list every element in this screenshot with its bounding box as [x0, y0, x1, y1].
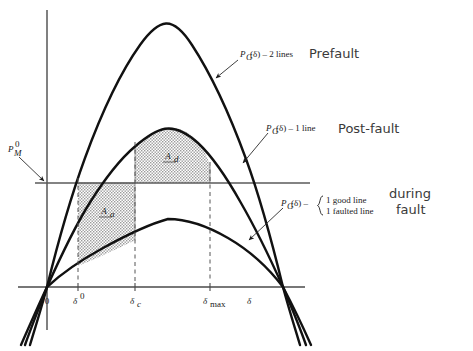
axis-label-delta0: δ 0	[73, 291, 85, 306]
delta-max-glyph: δ	[203, 296, 208, 306]
duringfault-arrow	[249, 208, 283, 240]
pm0-label-sup-0: 0	[15, 139, 20, 149]
duringfault-handwritten-line2: fault	[396, 202, 426, 217]
axis-label-delta-c: δ c	[130, 296, 141, 309]
duringfault-brace-icon	[318, 196, 324, 215]
prefault-handwritten: Prefault	[309, 46, 359, 61]
curve-duringfault-good-and-faulted	[21, 219, 311, 345]
duringfault-brace-line1: 1 good line	[326, 195, 367, 205]
prefault-label-p: P	[239, 49, 246, 59]
annotation-duringfault: P G (δ) – 1 good line 1 faulted line dur…	[249, 186, 431, 240]
axis-origin-label: 0	[45, 296, 50, 306]
prefault-label-rest: (δ) – 2 lines	[250, 49, 293, 59]
axis-label-delta: δ	[247, 296, 252, 306]
area-decelerating	[135, 128, 210, 183]
area-accelerating	[78, 183, 135, 266]
postfault-handwritten: Post-fault	[338, 121, 399, 136]
annotation-prefault: P G (δ) – 2 lines Prefault	[216, 46, 359, 78]
delta0-glyph: δ	[73, 296, 78, 306]
postfault-label-p: P	[265, 123, 272, 133]
prefault-arrow	[216, 60, 238, 78]
annotation-postfault: P G (δ) – 1 line Post-fault	[243, 121, 399, 163]
delta0-superscript: 0	[80, 291, 85, 301]
duringfault-label-rest: (δ) –	[291, 198, 308, 208]
area-aa-glyph: A	[100, 206, 107, 216]
delta-c-glyph: δ	[130, 296, 135, 306]
duringfault-handwritten-line1: during	[389, 186, 431, 201]
delta-max-subscript: max	[210, 299, 226, 309]
pm0-arrow	[19, 157, 44, 181]
area-ad-subscript: d	[174, 154, 179, 164]
postfault-label-rest: (δ) – 1 line	[276, 123, 315, 133]
curve-prefault-2-lines	[30, 23, 300, 345]
figure-canvas: 0 δ 0 δ c δ max δ P M 0 A a A d P G (δ) …	[0, 0, 473, 351]
duringfault-label-p: P	[280, 198, 287, 208]
pm0-label-group: P M 0	[7, 139, 44, 181]
area-ad-glyph: A	[164, 151, 171, 161]
equal-area-criterion-figure: 0 δ 0 δ c δ max δ P M 0 A a A d P G (δ) …	[0, 0, 473, 351]
pm0-label-sub-m: M	[13, 148, 22, 158]
duringfault-brace-line2: 1 faulted line	[326, 206, 373, 216]
delta-c-subscript: c	[137, 299, 141, 309]
area-aa-subscript: a	[110, 209, 115, 219]
axis-label-delta-max: δ max	[203, 296, 226, 309]
pm0-label-p: P	[7, 144, 14, 154]
postfault-arrow	[243, 133, 268, 163]
